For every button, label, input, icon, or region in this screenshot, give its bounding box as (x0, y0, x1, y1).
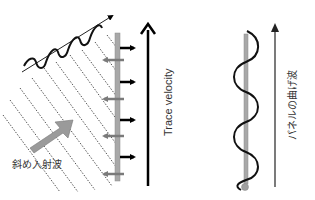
left-panel: 斜め入射波 Trace velocity (3, 16, 174, 192)
bending-propagation-arrow (271, 23, 279, 187)
panel-bar-right (244, 34, 248, 184)
incident-wave-label: 斜め入射波 (12, 158, 62, 170)
trace-velocity-arrow (141, 24, 155, 186)
pivot-circle (242, 184, 249, 191)
right-panel: パネルの曲げ波 (234, 23, 298, 191)
trace-velocity-label: Trace velocity (162, 68, 174, 136)
bending-wave-label: パネルの曲げ波 (286, 70, 298, 140)
incident-wave (22, 16, 112, 72)
panel-displacement-arrows (120, 48, 134, 157)
panel-bar (115, 33, 120, 181)
diagram-canvas: 斜め入射波 Trace velocity パネルの曲げ波 (0, 0, 315, 200)
